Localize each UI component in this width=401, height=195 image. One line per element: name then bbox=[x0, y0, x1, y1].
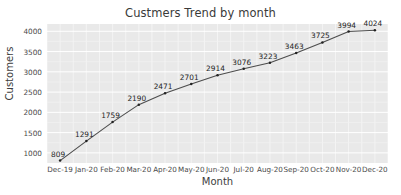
line-series-customers bbox=[47, 24, 388, 163]
y-tick-label: 1000 bbox=[0, 148, 42, 157]
y-tick-label: 1500 bbox=[0, 128, 42, 137]
x-axis-label: Month bbox=[47, 176, 388, 187]
chart-title: Custmers Trend by month bbox=[0, 6, 401, 20]
plot-area bbox=[47, 24, 388, 163]
x-tick-label: Dec-20 bbox=[355, 165, 395, 174]
chart-figure: Custmers Trend by month 1000150020002500… bbox=[0, 0, 401, 195]
y-axis-label: Customers bbox=[4, 34, 15, 114]
